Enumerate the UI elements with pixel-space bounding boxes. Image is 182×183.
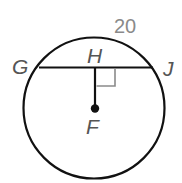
label-j: J <box>162 57 174 80</box>
right-angle-marker <box>97 69 116 87</box>
geometry-diagram: 20 G H J F <box>0 0 182 183</box>
measurement-label: 20 <box>114 15 136 37</box>
center-point-f <box>91 104 99 112</box>
label-g: G <box>12 55 28 78</box>
label-f: F <box>86 115 100 138</box>
label-h: H <box>87 44 103 67</box>
